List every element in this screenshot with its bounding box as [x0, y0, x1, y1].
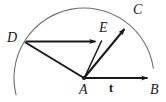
point-label-C: C: [133, 3, 142, 17]
vector-diagram-figure: D E C A B t: [0, 0, 166, 102]
segment-DA: [26, 43, 85, 79]
point-label-D: D: [7, 31, 17, 45]
vector-AC: [84, 29, 125, 78]
point-label-E: E: [99, 21, 108, 35]
vector-label-t: t: [109, 82, 113, 94]
point-label-B: B: [150, 83, 159, 97]
vertex-dot-A: [82, 76, 86, 80]
point-label-A: A: [79, 83, 88, 97]
